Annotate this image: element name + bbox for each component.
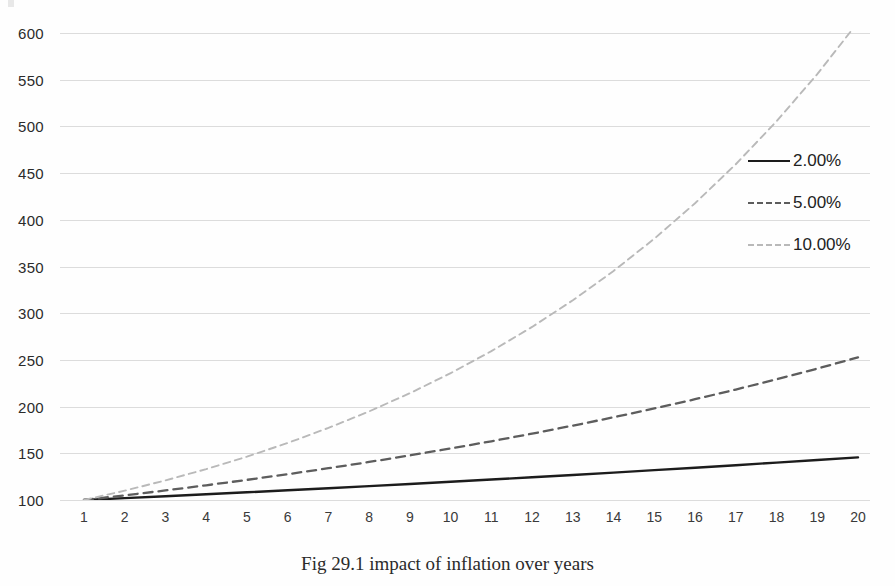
figure-caption: Fig 29.1 impact of inflation over years <box>0 553 895 575</box>
legend-label: 2.00% <box>793 151 841 171</box>
legend-swatch-dashed <box>748 202 790 204</box>
x-axis-tick-label: 19 <box>809 509 825 525</box>
legend-swatch-dotted <box>748 244 790 246</box>
y-axis-tick-label: 600 <box>18 25 44 42</box>
y-axis-tick-label: 450 <box>18 165 44 182</box>
x-axis-tick-label: 18 <box>769 509 785 525</box>
x-axis-tick-label: 2 <box>121 509 129 525</box>
y-axis-tick-label: 100 <box>18 492 44 509</box>
x-axis-tick-label: 5 <box>243 509 251 525</box>
legend-item[interactable]: 10.00% <box>748 224 878 266</box>
x-axis-tick-label: 20 <box>850 509 866 525</box>
x-axis-tick-label: 15 <box>647 509 663 525</box>
y-axis-tick-label: 550 <box>18 71 44 88</box>
y-axis-tick-label: 350 <box>18 258 44 275</box>
legend-item[interactable]: 2.00% <box>748 140 878 182</box>
legend-item[interactable]: 5.00% <box>748 182 878 224</box>
y-axis-tick-label: 150 <box>18 445 44 462</box>
y-axis-tick-label: 400 <box>18 211 44 228</box>
x-axis-tick-label: 1 <box>80 509 88 525</box>
gridline <box>60 500 870 501</box>
x-axis-tick-label: 10 <box>443 509 459 525</box>
x-axis-tick-label: 14 <box>606 509 622 525</box>
scan-artifact <box>8 0 14 7</box>
x-axis-tick-label: 7 <box>325 509 333 525</box>
x-axis-tick-label: 11 <box>484 509 499 525</box>
x-axis-tick-label: 17 <box>728 509 744 525</box>
x-axis-tick-label: 16 <box>687 509 703 525</box>
legend-label: 5.00% <box>793 193 841 213</box>
chart-page: 100150200250300350400450500550600 123456… <box>0 0 895 586</box>
x-axis-tick-label: 6 <box>284 509 292 525</box>
series-lines <box>60 33 870 500</box>
plot-area: 100150200250300350400450500550600 123456… <box>60 33 870 500</box>
legend-label: 10.00% <box>793 235 851 255</box>
series-line <box>84 457 858 500</box>
series-line <box>84 22 858 500</box>
series-line <box>84 357 858 500</box>
legend: 2.00%5.00%10.00% <box>748 140 878 266</box>
legend-swatch-solid <box>748 160 790 162</box>
x-axis-tick-label: 13 <box>565 509 581 525</box>
y-axis-tick-label: 200 <box>18 398 44 415</box>
y-axis-tick-label: 500 <box>18 118 44 135</box>
x-axis-tick-label: 3 <box>162 509 170 525</box>
y-axis-tick-label: 250 <box>18 351 44 368</box>
x-axis-tick-label: 8 <box>365 509 373 525</box>
x-axis-tick-label: 12 <box>524 509 540 525</box>
y-axis-tick-label: 300 <box>18 305 44 322</box>
x-axis-tick-label: 9 <box>406 509 414 525</box>
x-axis-tick-label: 4 <box>202 509 210 525</box>
